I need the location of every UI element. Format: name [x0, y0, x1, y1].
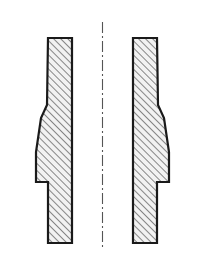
technical-drawing-canvas: Sectioned symmetric part profile	[0, 0, 206, 267]
section-drawing-svg	[0, 0, 206, 267]
